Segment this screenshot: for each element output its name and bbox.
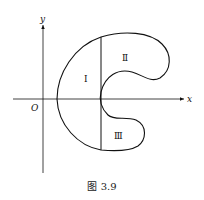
y-axis-label: y xyxy=(39,14,46,24)
diagram-canvas: y x O Ⅰ Ⅱ Ⅲ xyxy=(0,0,204,200)
region-2-label: Ⅱ xyxy=(122,53,128,63)
region-3-label: Ⅲ xyxy=(114,131,123,141)
region-1-label: Ⅰ xyxy=(84,74,88,84)
origin-label: O xyxy=(31,103,39,113)
x-axis-label: x xyxy=(187,94,192,104)
figure-caption: 图 3.9 xyxy=(0,178,204,193)
